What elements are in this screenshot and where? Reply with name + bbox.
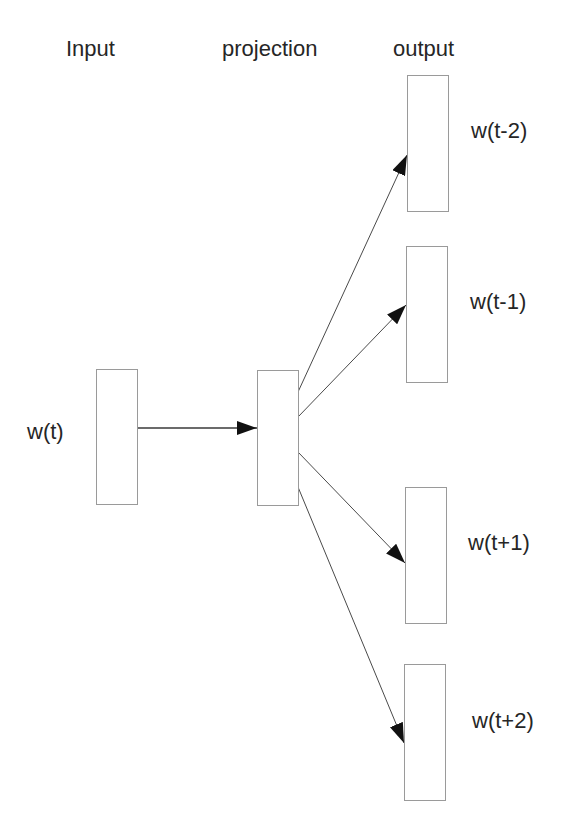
output-node-box-t-minus-1	[406, 246, 448, 383]
output-node-label-t-minus-2: w(t-2)	[471, 118, 527, 144]
edge-projection-w-t-plus-2	[298, 487, 404, 743]
output-node-label-t-plus-1: w(t+1)	[468, 530, 530, 556]
output-node-box-t-plus-1	[405, 487, 447, 624]
edge-projection-w-t-plus-1	[298, 452, 405, 563]
input-node-label: w(t)	[27, 419, 64, 445]
output-node-box-t-plus-2	[404, 664, 446, 801]
skip-gram-diagram: Input projection output w(t)	[0, 0, 583, 834]
edge-projection-w-t-minus-1	[298, 305, 406, 417]
edge-projection-w-t-minus-2	[298, 155, 407, 392]
output-node-box-t-minus-2	[407, 75, 449, 212]
output-node-label-t-plus-2: w(t+2)	[472, 708, 534, 734]
projection-node-box	[257, 370, 299, 506]
input-node-box	[96, 369, 138, 505]
output-node-label-t-minus-1: w(t-1)	[470, 289, 526, 315]
